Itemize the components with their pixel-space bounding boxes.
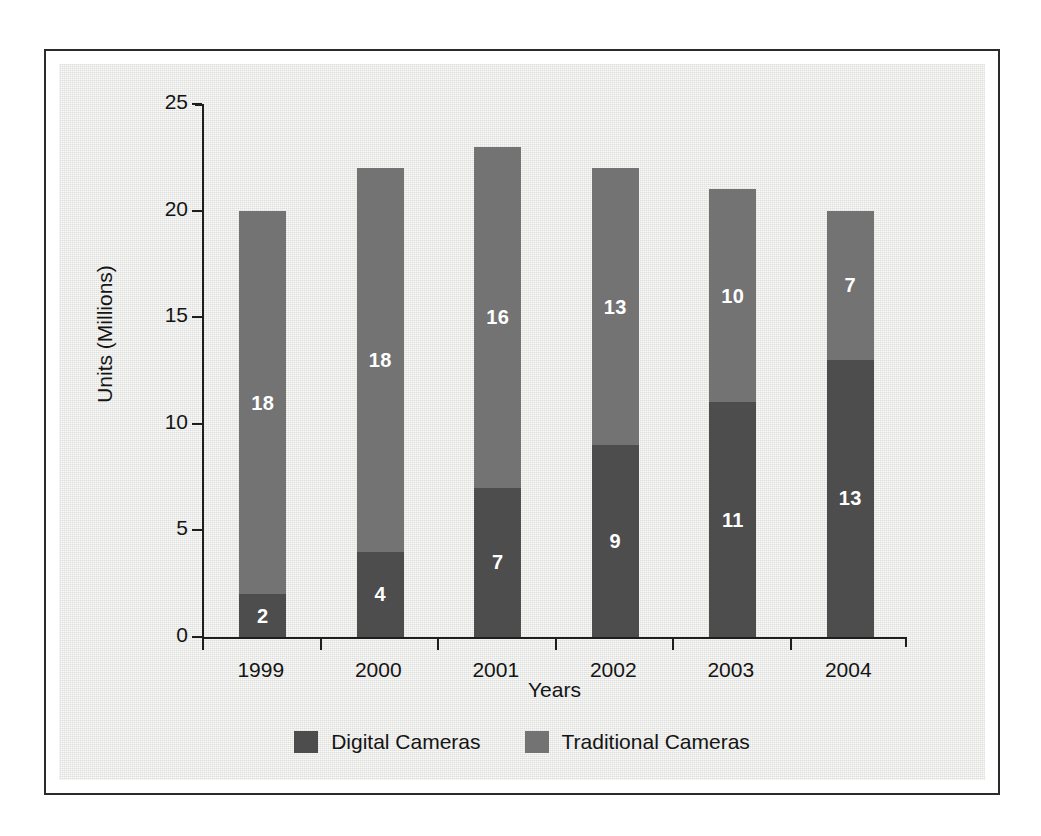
- y-tick-mark: [192, 423, 202, 425]
- bar-segment: 16: [474, 147, 521, 488]
- bar-segment: 9: [592, 445, 639, 637]
- y-tick-mark: [192, 636, 202, 638]
- bar-segment: 13: [592, 168, 639, 445]
- bar-value-label: 18: [369, 350, 392, 370]
- x-axis-title: Years: [202, 678, 907, 702]
- y-tick-label: 0: [96, 623, 188, 647]
- legend-label: Traditional Cameras: [562, 730, 750, 754]
- x-tick-mark: [790, 639, 792, 650]
- x-tick-mark: [672, 639, 674, 650]
- bar-segment: 13: [827, 360, 874, 637]
- bar-segment: 11: [709, 402, 756, 637]
- bar-group: 913: [592, 104, 639, 637]
- bar-value-label: 13: [604, 297, 627, 317]
- bar-value-label: 7: [845, 275, 856, 295]
- bar-value-label: 16: [486, 307, 509, 327]
- bar-value-label: 10: [721, 286, 744, 306]
- bar-segment: 10: [709, 189, 756, 402]
- y-axis-title: Units (Millions): [93, 224, 117, 444]
- chart-legend: Digital CamerasTraditional Cameras: [59, 730, 985, 754]
- bar-group: 137: [827, 104, 874, 637]
- y-tick-label: 5: [96, 516, 188, 540]
- bar-segment: 7: [474, 488, 521, 637]
- bar-value-label: 13: [839, 488, 862, 508]
- figure-plate: 0510152025 2184187169131110137 199920002…: [59, 64, 985, 780]
- bar-group: 1110: [709, 104, 756, 637]
- bar-group: 418: [357, 104, 404, 637]
- bar-group: 716: [474, 104, 521, 637]
- x-axis-end-cap: [905, 637, 907, 647]
- bar-value-label: 7: [492, 552, 503, 572]
- x-tick-mark: [202, 639, 204, 650]
- x-tick-mark: [320, 639, 322, 650]
- bar-group: 218: [239, 104, 286, 637]
- y-axis-line: [202, 104, 204, 638]
- legend-item[interactable]: Digital Cameras: [294, 730, 480, 754]
- bar-value-label: 18: [251, 393, 274, 413]
- legend-swatch-icon: [294, 731, 318, 753]
- y-tick-label: 25: [96, 90, 188, 114]
- y-tick-mark: [192, 316, 202, 318]
- bar-value-label: 4: [375, 584, 386, 604]
- legend-swatch-icon: [525, 731, 549, 753]
- bar-segment: 18: [357, 168, 404, 552]
- x-tick-mark: [437, 639, 439, 650]
- y-tick-mark: [192, 210, 202, 212]
- bar-value-label: 2: [257, 606, 268, 626]
- x-tick-mark: [555, 639, 557, 650]
- bar-segment: 18: [239, 211, 286, 595]
- y-tick-mark: [192, 529, 202, 531]
- y-tick-label: 20: [96, 197, 188, 221]
- legend-item[interactable]: Traditional Cameras: [525, 730, 750, 754]
- legend-label: Digital Cameras: [331, 730, 480, 754]
- bar-segment: 7: [827, 211, 874, 360]
- bar-chart-plot-area: 0510152025 2184187169131110137 199920002…: [59, 64, 985, 780]
- figure-frame: 0510152025 2184187169131110137 199920002…: [44, 49, 1000, 795]
- bar-segment: 2: [239, 594, 286, 637]
- bar-value-label: 9: [610, 531, 621, 551]
- bar-value-label: 11: [722, 510, 744, 530]
- y-tick-mark: [192, 103, 202, 105]
- bar-segment: 4: [357, 552, 404, 637]
